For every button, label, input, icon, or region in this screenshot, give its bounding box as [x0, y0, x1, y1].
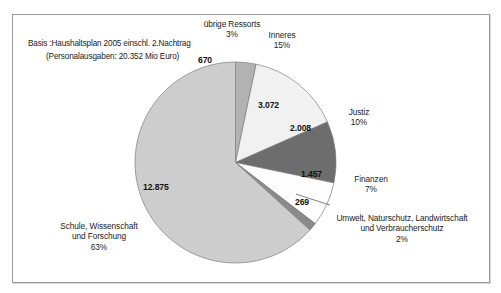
slice-value-inneres: 3.072: [258, 101, 279, 111]
slice-value-finanzen: 1.457: [301, 170, 322, 180]
slice-value-umwelt: 269: [295, 198, 309, 208]
slice-label-justiz: Justiz 10%: [339, 107, 379, 128]
slice-value-justiz: 2.008: [290, 124, 311, 134]
slice-value-schule: 12.875: [143, 183, 169, 193]
slice-label-schule-line1: Schule, Wissenschaft: [35, 221, 163, 231]
pie-chart-screenshot: Basis :Haushaltsplan 2005 einschl. 2.Nac…: [0, 0, 501, 293]
slice-label-schule-percent: 63%: [35, 242, 163, 252]
slice-label-umwelt-percent: 2%: [314, 234, 490, 244]
slice-value-uebrige-ressorts: 670: [198, 56, 212, 66]
slice-label-inneres-percent: 15%: [255, 40, 309, 50]
slice-label-inneres-name: Inneres: [255, 30, 309, 40]
slice-label-schule-line2: und Forschung: [35, 231, 163, 241]
slice-label-umwelt-line1: Umwelt, Naturschutz, Landwirtschaft: [314, 213, 490, 223]
slice-label-finanzen-percent: 7%: [345, 184, 397, 194]
slice-label-umwelt: Umwelt, Naturschutz, Landwirtschaft und …: [314, 213, 490, 244]
slice-label-uebrige-ressorts-name: übrige Ressorts: [186, 19, 278, 29]
slice-label-justiz-percent: 10%: [339, 117, 379, 127]
slice-label-finanzen: Finanzen 7%: [345, 174, 397, 195]
slice-label-justiz-name: Justiz: [339, 107, 379, 117]
slice-label-finanzen-name: Finanzen: [345, 174, 397, 184]
pie-slices-group: [135, 62, 336, 263]
basis-note-line1: Basis :Haushaltsplan 2005 einschl. 2.Nac…: [22, 38, 237, 51]
slice-label-inneres: Inneres 15%: [255, 30, 309, 51]
slice-label-umwelt-line2: und Verbraucherschutz: [314, 223, 490, 233]
slice-label-schule: Schule, Wissenschaft und Forschung 63%: [35, 221, 163, 252]
